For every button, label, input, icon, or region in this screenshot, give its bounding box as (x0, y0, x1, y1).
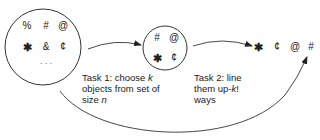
task1-var-n: n (102, 94, 107, 105)
arrow-line-up (193, 41, 252, 46)
subset-symbol-at: @ (169, 33, 179, 43)
full-set-symbol-hash: # (43, 21, 49, 31)
task2-line2: them up-k! (194, 83, 242, 94)
task1-line1-text: Task 1: choose (82, 72, 148, 83)
full-set-ellipsis: · · · (40, 59, 52, 69)
full-set-symbol-asterisk: ✱ (23, 42, 32, 52)
task1-caption: Task 1: choose k objects from set of siz… (82, 72, 160, 105)
arrangement-symbol-at: @ (290, 42, 300, 52)
task2-line2-text: them up- (194, 83, 232, 94)
subset-symbol-hash: # (154, 33, 160, 43)
subset-symbol-asterisk: ✱ (153, 53, 162, 63)
task2-factorial: ! (236, 83, 239, 94)
task1-line3-text: size (82, 94, 102, 105)
arrangement-symbol-asterisk: ✱ (254, 42, 263, 52)
task2-line1: Task 2: line (194, 72, 242, 83)
task1-line2: objects from set of (82, 83, 160, 94)
task1-var-k: k (148, 72, 153, 83)
subset-symbol-cent: ¢ (171, 53, 177, 63)
full-set-symbol-ampersand: & (43, 42, 50, 52)
arrow-choose (88, 42, 141, 49)
task1-line3: size n (82, 94, 160, 105)
task1-line1: Task 1: choose k (82, 72, 160, 83)
subset-circle (143, 26, 187, 70)
task2-line3: ways (194, 94, 242, 105)
full-set-symbol-percent: % (23, 21, 32, 31)
arrangement-symbol-cent: ¢ (274, 42, 280, 52)
arrangement-symbol-hash: # (308, 42, 314, 52)
full-set-symbol-at: @ (58, 21, 68, 31)
task2-caption: Task 2: line them up-k! ways (194, 72, 242, 105)
full-set-symbol-cent: ¢ (60, 42, 66, 52)
